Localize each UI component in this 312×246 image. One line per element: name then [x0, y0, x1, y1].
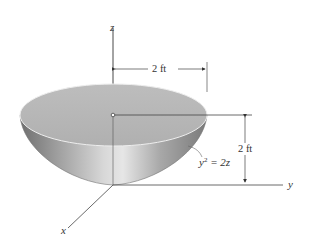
equation-label: y2 = 2z — [198, 156, 231, 168]
y-axis-label: y — [287, 178, 293, 190]
height-label: 2 ft — [238, 143, 252, 154]
z-axis-label: z — [109, 21, 115, 33]
x-axis — [68, 185, 113, 228]
radius-label: 2 ft — [152, 63, 166, 74]
x-axis-label: x — [60, 224, 66, 236]
center-point — [111, 113, 115, 117]
paraboloid-diagram: z 2 ft 2 ft y x y2 = 2z — [0, 0, 312, 246]
